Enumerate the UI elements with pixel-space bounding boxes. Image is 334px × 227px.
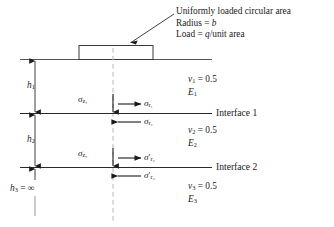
layer-1-poisson-value: = 0.5: [198, 74, 217, 84]
layer-3-modulus: E3: [188, 193, 217, 206]
layer-3-poisson-sub: 3: [192, 184, 195, 191]
layer-3-poisson-value: = 0.5: [198, 181, 217, 191]
layer-2-poisson: v2 = 0.5: [188, 124, 217, 137]
layer-1-modulus: E1: [188, 86, 217, 99]
layer-2-poisson-sub: 2: [192, 128, 195, 135]
callout-radius-symbol: b: [212, 18, 217, 28]
sigma-z1-label: σz₁: [78, 94, 87, 104]
callout-line-2: Radius = b: [176, 18, 291, 30]
layer-2-modulus: E2: [188, 137, 217, 150]
h3-value: = ∞: [20, 183, 34, 193]
sigma-r1-sub: r₁: [149, 101, 153, 108]
callout-load-prefix: Load =: [176, 29, 205, 39]
sigma-r2-sub: r₂: [149, 119, 153, 126]
loaded-area-rectangle: [79, 46, 153, 60]
sigma-r2-prime-label: σ′r₂: [144, 152, 155, 162]
callout-leader-line: [131, 14, 174, 43]
sigma-r2-prime-sub: r₂: [151, 155, 155, 162]
h3-label: h3 = ∞: [10, 183, 35, 194]
callout-load-suffix: /unit area: [210, 29, 245, 39]
callout-line-3: Load = q/unit area: [176, 29, 291, 41]
sigma-z2-sub: z₂: [83, 151, 88, 158]
layer-2-poisson-value: = 0.5: [198, 125, 217, 135]
interface-2-label: Interface 2: [216, 161, 257, 172]
callout-radius-prefix: Radius =: [176, 18, 212, 28]
layer-1-modulus-sub: 1: [194, 90, 197, 97]
three-layer-elastic-system-figure: Uniformly loaded circular area Radius = …: [0, 0, 334, 227]
sigma-r2-label: σr₂: [144, 116, 153, 126]
layer-3-properties: v3 = 0.5 E3: [188, 180, 217, 205]
h3-sub: 3: [15, 186, 18, 193]
sigma-z1-sub: z₁: [83, 97, 88, 104]
sigma-r1-label: σr₁: [144, 98, 153, 108]
callout-line-1: Uniformly loaded circular area: [176, 6, 291, 18]
h2-sub: 2: [32, 137, 35, 144]
layer-2-modulus-sub: 2: [194, 141, 197, 148]
layer-1-poisson: v1 = 0.5: [188, 73, 217, 86]
layer-3-poisson: v3 = 0.5: [188, 180, 217, 193]
interface-1-label: Interface 1: [216, 107, 257, 118]
sigma-z2-label: σz₂: [78, 148, 87, 158]
sigma-r3-prime-label: σ′r₃: [144, 170, 155, 180]
load-callout: Uniformly loaded circular area Radius = …: [176, 6, 291, 41]
layer-3-modulus-sub: 3: [194, 197, 197, 204]
layer-2-properties: v2 = 0.5 E2: [188, 124, 217, 149]
layer-1-poisson-sub: 1: [192, 77, 195, 84]
h1-sub: 1: [32, 83, 35, 90]
h1-label: h1: [27, 80, 35, 91]
layer-1-properties: v1 = 0.5 E1: [188, 73, 217, 98]
sigma-r3-prime-sub: r₃: [151, 173, 155, 180]
h2-label: h2: [27, 134, 35, 145]
